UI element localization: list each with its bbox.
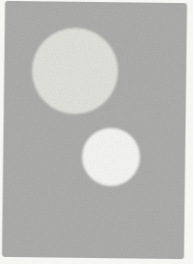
grain-overlay (0, 0, 193, 264)
figure-svg (0, 0, 193, 264)
scanned-page (0, 0, 193, 264)
